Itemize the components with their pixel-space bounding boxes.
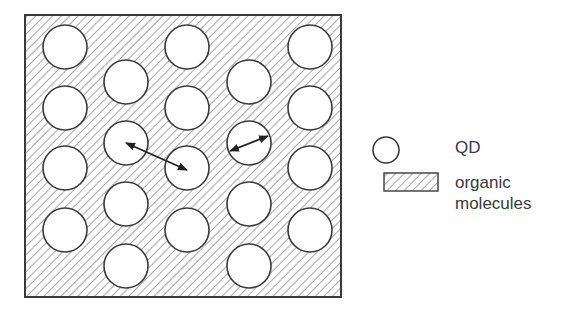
quantum-dot: [43, 208, 87, 252]
quantum-dot: [43, 25, 87, 69]
legend-label-qd: QD: [455, 138, 481, 158]
quantum-dot: [227, 244, 271, 288]
legend-label-molecules: molecules: [455, 194, 532, 214]
qd-array-diagram: [0, 0, 576, 310]
legend-qd-circle-icon: [373, 137, 399, 163]
quantum-dot: [288, 208, 332, 252]
quantum-dot: [104, 182, 148, 226]
quantum-dot: [43, 146, 87, 190]
quantum-dot: [288, 86, 332, 130]
quantum-dot: [165, 146, 209, 190]
quantum-dot: [104, 244, 148, 288]
quantum-dot: [165, 86, 209, 130]
legend-hatch-swatch-icon: [384, 173, 438, 191]
quantum-dot: [227, 182, 271, 226]
legend-label-organic: organic: [455, 173, 511, 193]
quantum-dot: [43, 86, 87, 130]
quantum-dot: [165, 25, 209, 69]
quantum-dot: [227, 60, 271, 104]
quantum-dot: [165, 208, 209, 252]
quantum-dot: [288, 146, 332, 190]
quantum-dot: [288, 25, 332, 69]
quantum-dot: [104, 60, 148, 104]
